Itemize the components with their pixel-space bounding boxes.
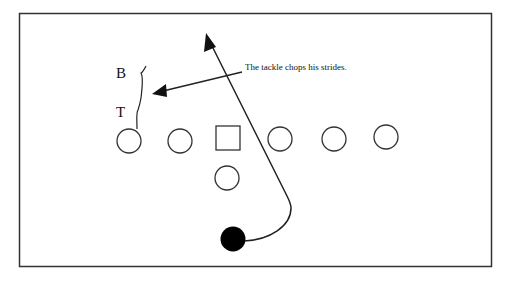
lineman-circle-3 bbox=[268, 127, 292, 151]
center-square bbox=[216, 126, 240, 150]
annotation-text: The tackle chops his strides. bbox=[245, 62, 347, 72]
label-b: B bbox=[116, 65, 126, 81]
quarterback-circle bbox=[215, 166, 239, 190]
ball-carrier-dot bbox=[221, 227, 246, 252]
lineman-circle-1 bbox=[117, 129, 141, 153]
label-t: T bbox=[116, 104, 125, 120]
play-diagram: B T The tackle chops his strides. bbox=[0, 0, 510, 281]
lineman-circle-4 bbox=[322, 127, 346, 151]
diagram-frame bbox=[20, 14, 492, 267]
lineman-circle-2 bbox=[168, 129, 192, 153]
lineman-circle-5 bbox=[374, 125, 398, 149]
